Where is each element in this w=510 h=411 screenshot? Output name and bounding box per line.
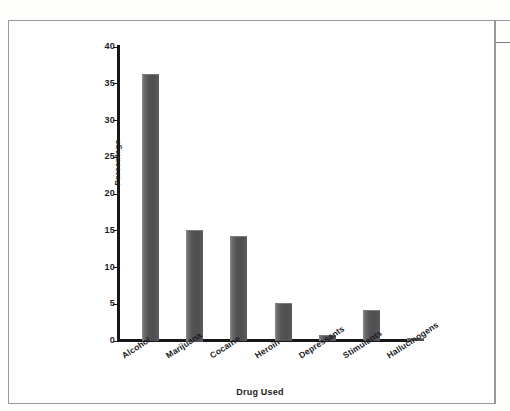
- bar-heroin: [275, 303, 292, 341]
- y-axis-tick-mark-5: [113, 304, 117, 305]
- y-axis-title: Percentage: [113, 123, 122, 203]
- x-axis-label-marijuana: Marijuana: [164, 330, 203, 360]
- x-axis-title: Drug Used: [205, 387, 315, 397]
- y-axis-tick-mark-15: [113, 230, 117, 231]
- bar-cocaine: [230, 236, 247, 341]
- y-axis-tick-mark-10: [113, 267, 117, 268]
- y-axis-tick-mark-0: [113, 341, 117, 342]
- bar-alcohol: [142, 74, 159, 341]
- y-axis-tick-mark-35: [113, 83, 117, 84]
- bar-marijuana: [186, 230, 203, 341]
- scanned-page: 0510152025303540 AlcoholMarijuanaCocaine…: [0, 0, 510, 411]
- y-axis-tick-mark-40: [113, 47, 117, 48]
- x-axis-label-cocaine: Cocaine: [208, 334, 242, 361]
- y-axis-tick-mark-30: [113, 120, 117, 121]
- bar-chart: 0510152025303540 AlcoholMarijuanaCocaine…: [0, 0, 510, 411]
